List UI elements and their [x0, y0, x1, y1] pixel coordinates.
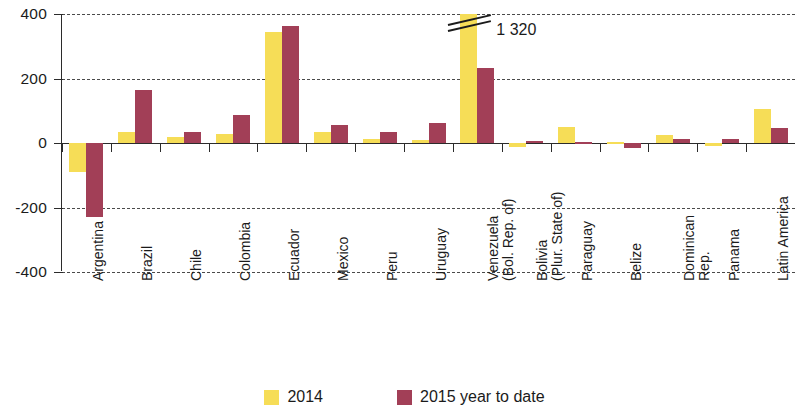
legend-item-2014: 2014: [264, 388, 323, 406]
y-tick-mark--200: [54, 208, 63, 209]
bar-3-series-1: [233, 115, 250, 143]
bar-4-series-0: [265, 32, 282, 143]
x-axis-label-line: (Bol. Rep. of): [501, 199, 516, 281]
x-tick-mark-0: [62, 143, 63, 152]
bar-12-series-0: [656, 135, 673, 143]
bar-3-series-0: [216, 134, 233, 143]
x-axis-label-0: Argentina: [91, 221, 106, 281]
bar-5-series-1: [331, 125, 348, 143]
x-axis-label-6: Peru: [385, 251, 400, 281]
x-tick-mark-6: [355, 143, 356, 152]
bar-12-series-1: [673, 139, 690, 143]
x-axis-label-12: DominicanRep.: [682, 215, 712, 281]
y-tick-label-400: 400: [21, 5, 47, 23]
legend-label-2014: 2014: [287, 388, 323, 406]
x-axis-label-11: Belize: [629, 243, 644, 281]
x-axis-label-8: Venezuela(Bol. Rep. of): [486, 199, 516, 281]
bar-14-series-1: [771, 128, 788, 143]
x-tick-mark-8: [453, 143, 454, 152]
y-tick-label-200: 200: [21, 70, 47, 88]
x-axis-label-4: Ecuador: [287, 229, 302, 281]
x-tick-mark-3: [209, 143, 210, 152]
x-tick-mark-7: [404, 143, 405, 152]
x-tick-mark-10: [551, 143, 552, 152]
venezuela-2014-value-label: 1 320: [496, 21, 536, 39]
legend: 2014 2015 year to date: [0, 388, 809, 406]
bar-0-series-1: [86, 143, 103, 217]
x-axis-label-line: Ecuador: [287, 229, 302, 281]
bar-5-series-0: [314, 132, 331, 143]
bar-10-series-0: [558, 127, 575, 143]
gridline-400: [62, 14, 795, 15]
x-axis-label-line: Mexico: [336, 237, 351, 281]
bar-10-series-1: [575, 142, 592, 144]
bar-2-series-1: [184, 132, 201, 143]
x-axis-label-line: Colombia: [238, 222, 253, 281]
x-axis-label-line: Dominican: [682, 215, 697, 281]
legend-label-2015: 2015 year to date: [420, 388, 545, 406]
x-axis-label-line: Paraguay: [580, 221, 595, 281]
y-tick-label--400: -400: [15, 263, 47, 281]
y-tick-label--200: -200: [15, 199, 47, 217]
x-axis-label-9: Bolivia(Plur. State of): [535, 192, 565, 281]
x-tick-mark-9: [502, 143, 503, 152]
x-tick-mark-13: [697, 143, 698, 152]
gridline-200: [62, 79, 795, 80]
x-tick-mark-11: [600, 143, 601, 152]
bar-0-series-0: [69, 143, 86, 172]
x-axis-label-line: Chile: [189, 249, 204, 281]
bar-7-series-1: [429, 123, 446, 143]
bar-2-series-0: [167, 137, 184, 143]
x-axis-label-14: Latin America: [776, 196, 791, 281]
bar-1-series-0: [118, 132, 135, 143]
x-axis-label-line: (Plur. State of): [550, 192, 565, 281]
bar-13-series-0: [705, 143, 722, 146]
bar-11-series-0: [607, 142, 624, 144]
x-tick-mark-12: [648, 143, 649, 152]
bar-chart: 4002000-200-400 ArgentinaBrazilChileColo…: [0, 0, 809, 416]
x-axis-label-line: Rep.: [697, 215, 712, 281]
x-axis-label-line: Argentina: [91, 221, 106, 281]
x-axis-label-13: Panama: [727, 229, 742, 281]
gridline--200: [62, 208, 795, 209]
bar-9-series-1: [526, 141, 543, 143]
x-tick-mark-5: [306, 143, 307, 152]
bar-11-series-1: [624, 143, 641, 148]
legend-swatch-2014: [264, 390, 279, 405]
x-axis-label-line: Peru: [385, 251, 400, 281]
x-tick-mark-2: [160, 143, 161, 152]
bar-14-series-0: [754, 109, 771, 143]
x-axis-label-1: Brazil: [140, 246, 155, 281]
bar-7-series-0: [412, 140, 429, 143]
y-tick-mark-200: [54, 79, 63, 80]
x-tick-mark-14: [746, 143, 747, 152]
x-tick-mark-1: [111, 143, 112, 152]
x-tick-mark-4: [257, 143, 258, 152]
y-tick-mark-400: [54, 14, 63, 15]
x-axis-label-line: Panama: [727, 229, 742, 281]
x-axis-label-line: Bolivia: [535, 192, 550, 281]
x-axis-label-3: Colombia: [238, 222, 253, 281]
bar-6-series-1: [380, 132, 397, 143]
x-axis-label-7: Uruguay: [434, 228, 449, 281]
x-axis-label-line: Uruguay: [434, 228, 449, 281]
legend-item-2015: 2015 year to date: [397, 388, 545, 406]
bar-6-series-0: [363, 139, 380, 143]
x-axis-label-10: Paraguay: [580, 221, 595, 281]
x-axis-label-5: Mexico: [336, 237, 351, 281]
zero-baseline: [62, 143, 795, 144]
y-tick-mark--400: [54, 272, 63, 273]
x-axis-label-line: Brazil: [140, 246, 155, 281]
bar-8-series-1: [477, 68, 494, 143]
bar-9-series-0: [509, 143, 526, 147]
x-axis-label-line: Belize: [629, 243, 644, 281]
axis-break-marker: [448, 24, 492, 38]
x-axis-label-line: Latin America: [776, 196, 791, 281]
legend-swatch-2015: [397, 390, 412, 405]
x-axis-label-2: Chile: [189, 249, 204, 281]
bar-4-series-1: [282, 26, 299, 143]
bar-13-series-1: [722, 139, 739, 143]
bar-1-series-1: [135, 90, 152, 143]
y-tick-label-0: 0: [38, 134, 47, 152]
